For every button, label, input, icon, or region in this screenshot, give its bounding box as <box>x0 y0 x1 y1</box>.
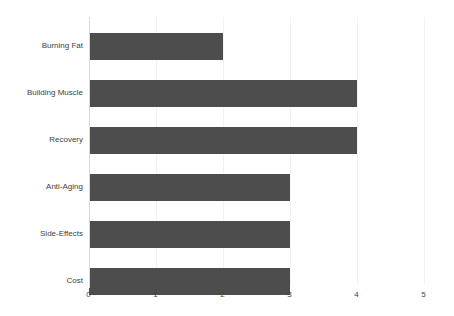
x-tick-label-1: 1 <box>146 290 166 300</box>
y-tick-label-recovery: Recovery <box>0 135 83 145</box>
x-tick-mark-0 <box>89 285 90 288</box>
bar-building-muscle <box>89 80 357 107</box>
y-tick-label-text: Anti-Aging <box>46 182 83 191</box>
bar-chart: Burning Fat Building Muscle Recovery Ant… <box>0 0 454 316</box>
x-tick-label-2: 2 <box>213 290 233 300</box>
x-tick-label-3: 3 <box>280 290 300 300</box>
x-tick-label-4: 4 <box>347 290 367 300</box>
bar-recovery <box>89 127 357 154</box>
y-tick-label-text: Recovery <box>49 135 83 144</box>
plot-area <box>89 17 424 285</box>
bar-side-effects <box>89 221 290 248</box>
y-tick-label-text: Burning Fat <box>42 41 83 50</box>
bar-anti-aging <box>89 174 290 201</box>
gridline-5 <box>424 17 425 285</box>
y-tick-label-text: Side-Effects <box>40 229 83 238</box>
y-tick-label-burning-fat: Burning Fat <box>0 41 83 51</box>
y-tick-label-text: Building Muscle <box>27 88 83 97</box>
y-tick-label-side-effects: Side-Effects <box>0 229 83 239</box>
bar-burning-fat <box>89 33 223 60</box>
bar-cost <box>89 268 290 295</box>
x-tick-label-0: 0 <box>79 290 99 300</box>
y-tick-label-building-muscle: Building Muscle <box>0 88 83 98</box>
y-axis-line <box>89 17 90 285</box>
x-tick-label-5: 5 <box>414 290 434 300</box>
gridline-4 <box>357 17 358 285</box>
y-tick-label-cost: Cost <box>0 276 83 286</box>
y-tick-label-anti-aging: Anti-Aging <box>0 182 83 192</box>
y-tick-label-text: Cost <box>67 276 83 285</box>
